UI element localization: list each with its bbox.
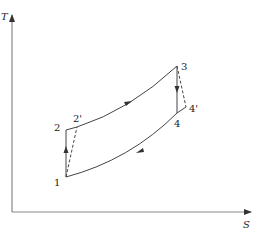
t-axis-label: T: [1, 11, 9, 22]
axes: T S: [1, 11, 251, 230]
arrow-up-icon: [64, 146, 69, 153]
s-axis-label: S: [243, 219, 250, 230]
point-4prime-label: 4': [189, 103, 198, 114]
point-2-label: 2: [54, 122, 60, 133]
process-2-3: [66, 66, 177, 130]
arrow-down-icon: [175, 86, 180, 93]
arrow-backward-icon: [136, 148, 144, 153]
cycle: [66, 66, 186, 177]
point-2prime-label: 2': [73, 113, 82, 124]
point-1-label: 1: [54, 177, 60, 188]
process-4-1: [66, 107, 186, 177]
point-3-label: 3: [181, 61, 187, 72]
point-4-label: 4: [174, 118, 180, 129]
ts-diagram: T S 1 2 2' 3 4 4': [0, 0, 264, 237]
